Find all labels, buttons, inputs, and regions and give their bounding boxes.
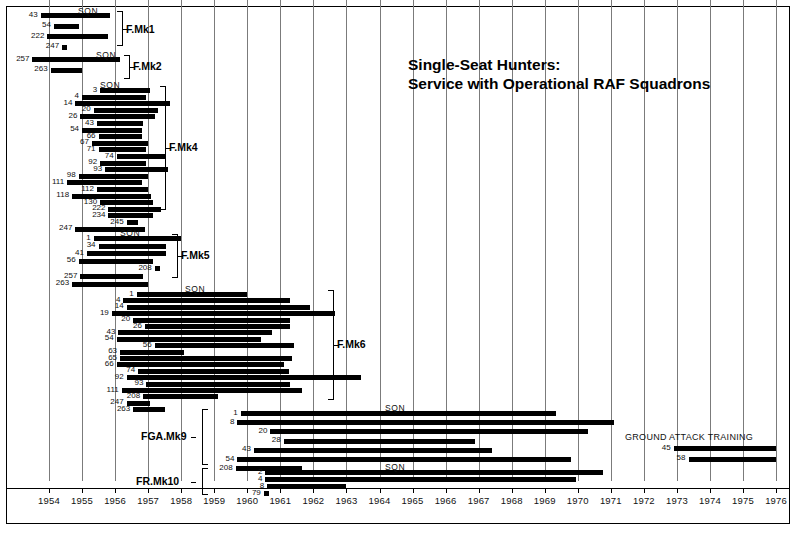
tick-1975: [743, 488, 744, 493]
tick-1968: [512, 488, 513, 493]
bar-F.Mk4-sqn-4: [82, 95, 146, 100]
bar-F.Mk5-sqn-34: [99, 244, 167, 249]
bar-F.Mk6-sqn-263: [133, 407, 164, 412]
bar-F.Mk6-sqn-19: [112, 311, 335, 316]
tick-1967: [479, 488, 480, 493]
row-label-F.Mk1-222: 222: [5, 32, 44, 40]
group-label-FR.Mk10: FR.Mk10: [136, 475, 179, 487]
bar-F.Mk1-sqn-222: [47, 34, 108, 39]
gridline-1963: [346, 0, 347, 481]
row-label-FR.Mk10-79: 79: [222, 489, 261, 497]
tick-1971: [611, 488, 612, 493]
bar-F.Mk4-sqn-222: [108, 207, 161, 212]
bar-FGA.Mk9-sqn-28: [284, 439, 476, 444]
bar-F.Mk6-sqn-63: [120, 350, 184, 355]
bar-FR.Mk10-sqn-8: [267, 484, 346, 489]
bar-F.Mk1-sqn-43: [41, 13, 110, 18]
bar-F.Mk2-sqn-263: [51, 68, 82, 73]
bar-F.Mk4-sqn-112: [97, 187, 148, 192]
row-label-F.Mk5-263: 263: [30, 279, 69, 287]
row-label-F.Mk6-54: 54: [75, 334, 114, 342]
bar-F.Mk6-sqn-92: [127, 375, 362, 380]
tick-1965: [413, 488, 414, 493]
tick-1976: [776, 488, 777, 493]
gridline-1961: [280, 0, 281, 481]
bar-F.Mk6-sqn-26: [145, 324, 290, 329]
row-label-F.Mk5-56: 56: [37, 256, 76, 264]
bar-F.Mk5-sqn-263: [72, 282, 148, 287]
gridline-1975: [743, 0, 744, 481]
bar-FR.Mk10-sqn-4: [265, 477, 576, 482]
bar-F.Mk1-sqn-54: [54, 24, 79, 29]
group-label-F.Mk6: F.Mk6: [337, 338, 366, 350]
sqn-header-FGA.Mk9: SQN: [385, 403, 405, 413]
row-label-F.Mk1-54: 54: [12, 21, 51, 29]
tick-1954: [49, 488, 50, 493]
group-label-F.Mk5: F.Mk5: [181, 249, 210, 261]
chart-page: 1954195519561957195819591960196119621963…: [0, 0, 796, 535]
row-label-F.Mk2-257: 257: [0, 55, 29, 63]
title-line-1: Single-Seat Hunters:: [408, 55, 710, 74]
bar-FGA.Mk9-sqn-43: [254, 448, 492, 453]
bar-F.Mk4-sqn-98: [79, 174, 148, 179]
gridline-1958: [181, 0, 182, 481]
bar-FR.Mk10-sqn-2: [265, 470, 602, 475]
bar-F.Mk6-sqn-111: [122, 388, 302, 393]
row-label-GROUND ATTACK TRAINING-58: 58: [647, 454, 686, 462]
bar-F.Mk6-sqn-56: [155, 343, 294, 348]
bar-FR.Mk10-sqn-79: [264, 491, 269, 496]
chart-title: Single-Seat Hunters: Service with Operat…: [408, 55, 710, 93]
bar-FGA.Mk9-sqn-8: [237, 420, 614, 425]
tick-1963: [346, 488, 347, 493]
group-label-F.Mk2: F.Mk2: [133, 60, 162, 72]
bar-F.Mk6-sqn-4: [123, 298, 290, 303]
bar-FGA.Mk9-sqn-20: [270, 429, 587, 434]
group-label-FGA.Mk9: FGA.Mk9: [141, 430, 187, 442]
ground-attack-training-label: GROUND ATTACK TRAINING: [625, 432, 753, 442]
row-label-F.Mk4-247: 247: [33, 224, 72, 232]
bar-F.Mk6-sqn-20: [133, 318, 290, 323]
group-label-F.Mk1: F.Mk1: [126, 23, 155, 35]
bar-F.Mk4-sqn-130: [100, 200, 153, 205]
bracket-stem-FR.Mk10: [191, 482, 196, 483]
bar-F.Mk6-sqn-66: [117, 362, 284, 367]
bar-F.Mk6-sqn-74: [138, 369, 288, 374]
row-label-F.Mk4-245: 245: [85, 218, 124, 226]
bar-F.Mk4-sqn-93: [105, 167, 168, 172]
sqn-header-F.Mk4: SQN: [100, 80, 120, 90]
bar-F.Mk4-sqn-20: [94, 108, 158, 113]
gridline-1960: [247, 0, 248, 481]
row-label-FGA.Mk9-20: 20: [228, 427, 267, 435]
row-label-FGA.Mk9-28: 28: [242, 436, 281, 444]
sqn-header-F.Mk6: SQN: [185, 284, 205, 294]
tick-1957: [148, 488, 149, 493]
bar-F.Mk5-sqn-41: [87, 251, 166, 256]
sqn-header-F.Mk1: SQN: [78, 6, 98, 16]
bar-F.Mk4-sqn-43: [97, 121, 143, 126]
row-label-F.Mk2-263: 263: [9, 65, 48, 73]
bar-F.Mk4-sqn-67: [92, 141, 148, 146]
bar-GROUND ATTACK TRAINING-sqn-58: [689, 457, 777, 462]
group-label-F.Mk4: F.Mk4: [169, 141, 198, 153]
tick-1964: [380, 488, 381, 493]
tick-1972: [644, 488, 645, 493]
tick-1969: [545, 488, 546, 493]
tick-1956: [115, 488, 116, 493]
gridline-1964: [380, 0, 381, 481]
bracket-FGA.Mk9: [202, 409, 208, 465]
tick-1966: [446, 488, 447, 493]
tick-1955: [82, 488, 83, 493]
row-label-F.Mk1-43: 43: [0, 11, 38, 19]
bar-F.Mk4-sqn-66: [99, 134, 142, 139]
bar-F.Mk4-sqn-74: [117, 154, 167, 159]
bracket-stem-FGA.Mk9: [191, 437, 196, 438]
bar-GROUND ATTACK TRAINING-sqn-45: [674, 446, 776, 451]
bar-F.Mk4-sqn-245: [127, 220, 139, 225]
bar-F.Mk5-sqn-208: [155, 266, 160, 271]
gridline-1976: [776, 0, 777, 481]
title-line-2: Service with Operational RAF Squadrons: [408, 74, 710, 93]
bar-F.Mk5-sqn-257: [80, 274, 143, 279]
x-axis-line: [7, 488, 789, 489]
row-label-F.Mk5-208: 208: [113, 264, 152, 272]
bar-F.Mk6-sqn-93: [146, 382, 290, 387]
